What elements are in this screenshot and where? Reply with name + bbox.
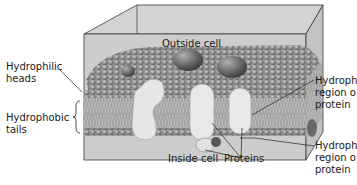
label-inside-cell: Inside cell: [168, 153, 218, 164]
label-hydrophobic-region-line2: region o: [315, 87, 356, 98]
surface-protein-3: [121, 65, 135, 77]
tails-brace: [73, 101, 80, 133]
label-hydrophilic-heads-line2: heads: [6, 73, 36, 84]
leader-heads: [60, 70, 82, 92]
label-hydrophobic-region-line1: Hydroph: [315, 75, 357, 86]
transmembrane-protein-3: [229, 88, 251, 134]
label-hydrophilic-region-line2: region o: [315, 152, 356, 163]
label-hydrophilic-region-line1: Hydroph: [315, 140, 357, 151]
peripheral-protein: [196, 138, 214, 152]
label-hydrophobic-tails-line2: tails: [6, 124, 27, 135]
label-hydrophobic-tails-line1: Hydrophobic: [6, 112, 69, 123]
label-proteins: Proteins: [224, 153, 264, 164]
label-hydrophobic-region-line3: protein: [315, 99, 351, 110]
surface-protein-1: [173, 49, 203, 71]
peripheral-protein-dark: [211, 137, 221, 147]
surface-protein-2: [217, 56, 247, 78]
box-top-face: [84, 5, 323, 34]
label-outside-cell: Outside cell: [162, 38, 221, 49]
label-hydrophilic-heads-line1: Hydrophilic: [6, 61, 62, 72]
transmembrane-protein-2: [190, 84, 214, 140]
label-hydrophilic-region-line3: protein: [315, 164, 351, 175]
